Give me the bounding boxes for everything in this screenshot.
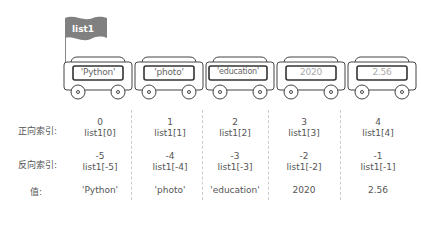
train-car-3: 2020	[276, 56, 346, 102]
train-car-icon	[134, 56, 204, 102]
train-car-icon	[205, 56, 275, 102]
forward-index-expr: list1[0]	[65, 128, 135, 139]
train-car-4: 2.56	[347, 56, 417, 102]
index-column-0: 0 list1[0] -5 list1[-5] 'Python'	[65, 117, 135, 196]
car-value-label: 2.56	[359, 67, 405, 77]
value-label: 值:	[30, 185, 42, 198]
element-value: 'education'	[200, 185, 270, 196]
train-car-icon	[347, 56, 417, 102]
car-value-label: 'photo'	[146, 67, 192, 77]
reverse-index-expr: list1[-2]	[269, 162, 339, 173]
train-car-0: 'Python'	[63, 56, 133, 102]
train-car-icon	[276, 56, 346, 102]
forward-index: 2	[200, 117, 270, 128]
element-value: 'photo'	[135, 185, 205, 196]
forward-index-expr: list1[3]	[269, 128, 339, 139]
forward-index-expr: list1[4]	[343, 128, 413, 139]
element-value: 'Python'	[65, 185, 135, 196]
forward-index-expr: list1[1]	[135, 128, 205, 139]
index-column-1: 1 list1[1] -4 list1[-4] 'photo'	[135, 117, 205, 196]
element-value: 2.56	[343, 185, 413, 196]
forward-index-label: 正向索引:	[18, 124, 57, 137]
car-value-label: 'education'	[209, 67, 267, 76]
reverse-index: -4	[135, 151, 205, 162]
column-divider	[340, 110, 341, 200]
element-value: 2020	[269, 185, 339, 196]
car-value-label: 'Python'	[75, 67, 121, 77]
index-column-3: 3 list1[3] -2 list1[-2] 2020	[269, 117, 339, 196]
forward-index: 0	[65, 117, 135, 128]
reverse-index-label: 反向索引:	[18, 158, 57, 171]
reverse-index-expr: list1[-4]	[135, 162, 205, 173]
forward-index: 3	[269, 117, 339, 128]
reverse-index: -2	[269, 151, 339, 162]
car-value-label: 2020	[288, 67, 334, 77]
index-column-4: 4 list1[4] -1 list1[-1] 2.56	[343, 117, 413, 196]
reverse-index-expr: list1[-5]	[65, 162, 135, 173]
train-car-2: 'education'	[205, 56, 275, 102]
reverse-index-expr: list1[-1]	[343, 162, 413, 173]
index-column-2: 2 list1[2] -3 list1[-3] 'education'	[200, 117, 270, 196]
reverse-index: -1	[343, 151, 413, 162]
list-name-label: list1	[72, 24, 94, 34]
reverse-index: -3	[200, 151, 270, 162]
reverse-index-expr: list1[-3]	[200, 162, 270, 173]
forward-index: 4	[343, 117, 413, 128]
train-car-1: 'photo'	[134, 56, 204, 102]
reverse-index: -5	[65, 151, 135, 162]
forward-index-expr: list1[2]	[200, 128, 270, 139]
train-car-icon	[63, 56, 133, 102]
forward-index: 1	[135, 117, 205, 128]
